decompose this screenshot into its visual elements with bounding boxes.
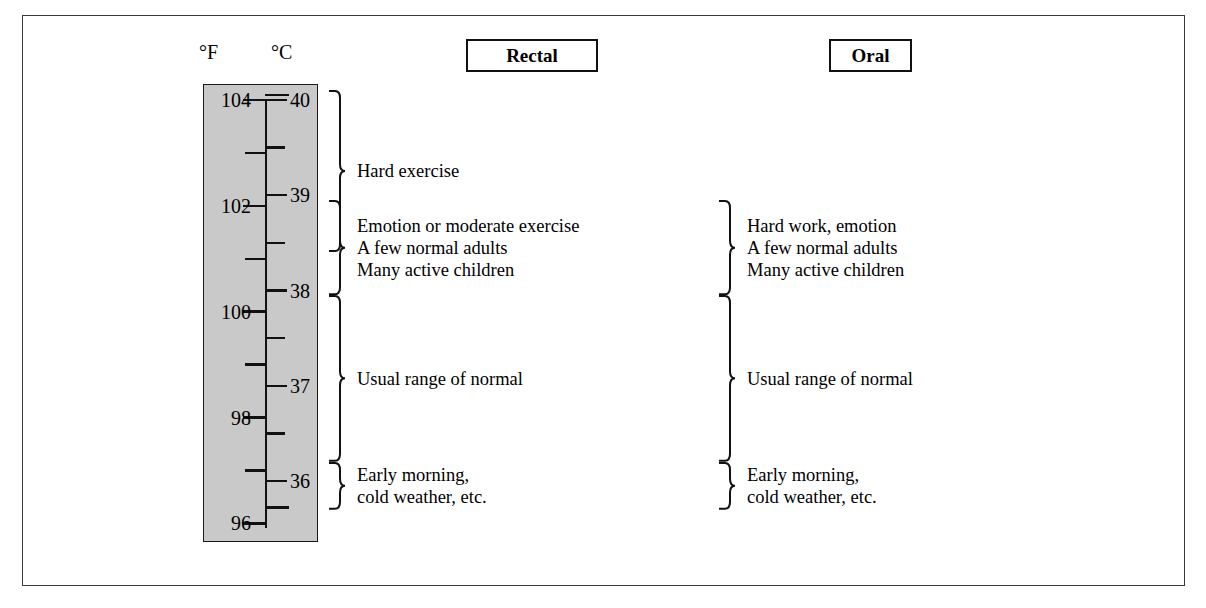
tick-fahrenheit-97: [245, 469, 265, 471]
oral-group-early-morning-brace: [718, 462, 736, 510]
oral-group-hard-work-text: Hard work, emotionA few normal adultsMan…: [747, 215, 904, 281]
tick-axis-bottom-cap: [265, 506, 289, 508]
oral-group-hard-work-text-line-1: Hard work, emotion: [747, 215, 904, 237]
rectal-group-early-morning-text-line-1: Early morning,: [357, 464, 487, 486]
oral-group-usual-normal-text: Usual range of normal: [747, 368, 913, 390]
tick-celsius-37: [265, 385, 287, 387]
tick-celsius-38: [265, 289, 287, 291]
rectal-group-early-morning-brace: [328, 462, 346, 510]
rectal-group-emotion-moderate-brace: [328, 200, 346, 295]
oral-group-early-morning-text-line-1: Early morning,: [747, 464, 877, 486]
celsius-axis-label: °C: [271, 42, 292, 62]
rectal-group-emotion-moderate-text: Emotion or moderate exerciseA few normal…: [357, 215, 579, 281]
figure-canvas: °F °C 40393837361041021009896 Rectal Ora…: [0, 0, 1206, 608]
column-header-rectal: Rectal: [466, 39, 598, 72]
tick-celsius-36: [265, 480, 287, 482]
label-fahrenheit-102: 102: [205, 196, 251, 216]
oral-group-hard-work-text-line-2: A few normal adults: [747, 237, 904, 259]
rectal-group-emotion-moderate-text-line-1: Emotion or moderate exercise: [357, 215, 579, 237]
tick-celsius-38.5: [265, 242, 285, 244]
column-header-oral: Oral: [829, 39, 912, 72]
label-celsius-40: 40: [290, 90, 310, 110]
oral-group-early-morning-text-line-2: cold weather, etc.: [747, 486, 877, 508]
oral-group-usual-normal-text-line-1: Usual range of normal: [747, 368, 913, 390]
tick-celsius-37.5: [265, 337, 285, 339]
tick-fahrenheit-101: [245, 258, 265, 260]
rectal-group-early-morning-text-line-2: cold weather, etc.: [357, 486, 487, 508]
oral-group-hard-work-brace: [718, 200, 736, 295]
label-fahrenheit-98: 98: [205, 408, 251, 428]
rectal-group-usual-normal-brace: [328, 295, 346, 462]
tick-celsius-40: [265, 99, 287, 101]
tick-fahrenheit-103: [245, 152, 265, 154]
label-fahrenheit-96: 96: [205, 513, 251, 533]
fahrenheit-axis-label: °F: [199, 42, 218, 62]
label-fahrenheit-104: 104: [205, 90, 251, 110]
tick-celsius-39.5: [265, 146, 285, 148]
tick-celsius-39: [265, 194, 287, 196]
rectal-group-usual-normal-text: Usual range of normal: [357, 368, 523, 390]
label-celsius-39: 39: [290, 185, 310, 205]
rectal-group-early-morning-text: Early morning,cold weather, etc.: [357, 464, 487, 508]
rectal-group-hard-exercise-text: Hard exercise: [357, 160, 459, 182]
oral-group-usual-normal-brace: [718, 295, 736, 462]
label-celsius-38: 38: [290, 281, 310, 301]
label-fahrenheit-100: 100: [205, 302, 251, 322]
tick-axis-top-cap: [265, 94, 289, 96]
oral-group-early-morning-text: Early morning,cold weather, etc.: [747, 464, 877, 508]
rectal-group-emotion-moderate-text-line-2: A few normal adults: [357, 237, 579, 259]
scale-axis-line: [265, 99, 267, 528]
tick-celsius-36.5: [265, 432, 285, 434]
rectal-group-usual-normal-text-line-1: Usual range of normal: [357, 368, 523, 390]
label-celsius-37: 37: [290, 376, 310, 396]
oral-group-hard-work-text-line-3: Many active children: [747, 259, 904, 281]
label-celsius-36: 36: [290, 471, 310, 491]
figure-border: [22, 15, 1185, 586]
rectal-group-hard-exercise-text-line-1: Hard exercise: [357, 160, 459, 182]
tick-fahrenheit-99: [245, 363, 265, 365]
rectal-group-emotion-moderate-text-line-3: Many active children: [357, 259, 579, 281]
